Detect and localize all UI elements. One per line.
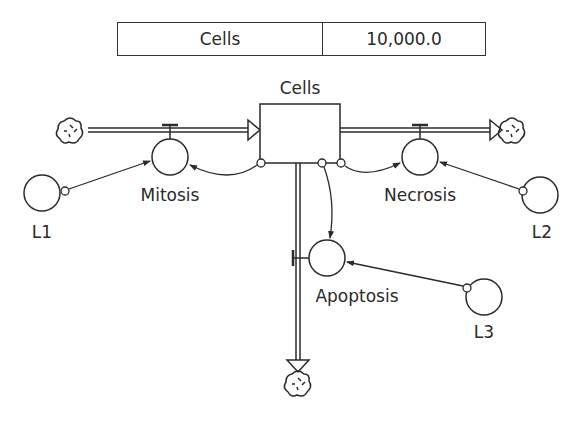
flow-label-necrosis: Necrosis: [384, 185, 456, 205]
converter-l3[interactable]: [466, 279, 502, 315]
inflow-pipe-mitosis[interactable]: [88, 120, 260, 140]
stock-flow-diagram: [0, 0, 587, 423]
valve-apoptosis-icon[interactable]: [293, 240, 345, 276]
converter-label-l3: L3: [474, 322, 494, 342]
connectors: [61, 159, 527, 292]
converter-l2[interactable]: [522, 177, 558, 213]
flow-label-apoptosis: Apoptosis: [315, 286, 398, 306]
outflow-pipe-necrosis[interactable]: [340, 120, 502, 140]
stock-cells[interactable]: [260, 104, 340, 163]
converter-l1[interactable]: [24, 175, 60, 211]
flow-label-mitosis: Mitosis: [141, 185, 200, 205]
converter-label-l1: L1: [32, 222, 52, 242]
source-cloud-icon: [56, 118, 82, 143]
converter-label-l2: L2: [532, 222, 552, 242]
outflow-pipe-apoptosis[interactable]: [287, 163, 309, 372]
stock-label: Cells: [280, 78, 321, 98]
sink-cloud-bottom-icon: [284, 371, 310, 396]
